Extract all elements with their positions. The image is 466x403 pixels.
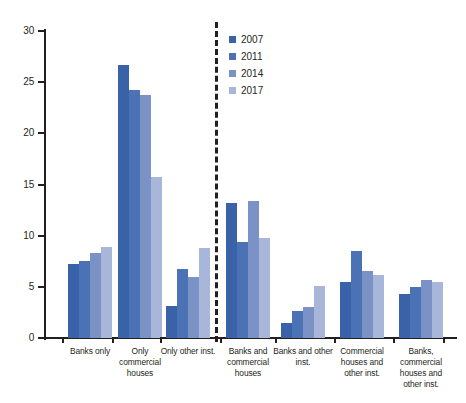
bar-2014: [248, 201, 259, 338]
bar-2007: [68, 264, 79, 338]
bar-2014: [303, 307, 314, 338]
y-tick-0: [38, 337, 45, 339]
bar-2007: [281, 323, 292, 338]
x-tick: [112, 337, 114, 343]
bar-2007: [399, 294, 410, 338]
bar-group: [278, 31, 328, 338]
legend-item-2014[interactable]: 2014: [229, 65, 263, 82]
x-tick: [160, 337, 162, 343]
x-axis-label: Only other inst.: [158, 346, 218, 357]
y-tick-25: [38, 81, 45, 83]
legend-item-2011[interactable]: 2011: [229, 48, 263, 65]
bar-2007: [226, 203, 237, 338]
x-tick: [443, 337, 445, 343]
bar-group: [337, 31, 387, 338]
legend-swatch-icon: [229, 36, 236, 43]
y-tick-label: 25: [8, 77, 34, 87]
x-axis-label: Banks, commercial houses and other inst.: [391, 346, 451, 390]
legend-item-2007[interactable]: 2007: [229, 31, 263, 48]
x-axis-label: Banks and other inst.: [273, 346, 333, 368]
x-tick: [393, 337, 395, 343]
legend-label: 2017: [241, 86, 263, 96]
bar-chart: 051015202530 Banks onlyOnly commercial h…: [0, 0, 466, 403]
y-tick-label: 30: [8, 26, 34, 36]
bar-2017: [373, 275, 384, 338]
y-tick-20: [38, 132, 45, 134]
bar-2014: [90, 253, 101, 338]
bar-2017: [432, 282, 443, 338]
y-tick-10: [38, 235, 45, 237]
legend-label: 2014: [241, 69, 263, 79]
bar-2007: [340, 282, 351, 338]
bar-2017: [199, 248, 210, 338]
bar-2011: [79, 261, 90, 338]
legend-swatch-icon: [229, 70, 236, 77]
y-tick-5: [38, 286, 45, 288]
bar-2014: [188, 277, 199, 338]
bar-group: [396, 31, 446, 338]
x-axis-label: Banks and commercial houses: [218, 346, 278, 379]
bar-2017: [314, 286, 325, 338]
y-tick-label: 20: [8, 128, 34, 138]
x-tick: [275, 337, 277, 343]
bar-2007: [118, 65, 129, 338]
y-tick-label: 15: [8, 180, 34, 190]
legend-item-2017[interactable]: 2017: [229, 82, 263, 99]
bar-2017: [101, 247, 112, 338]
legend-label: 2007: [241, 35, 263, 45]
bar-2011: [292, 311, 303, 338]
bar-2017: [151, 177, 162, 338]
legend-label: 2011: [241, 52, 263, 62]
legend-swatch-icon: [229, 53, 236, 60]
y-tick-label: 10: [8, 231, 34, 241]
x-tick: [334, 337, 336, 343]
bar-2011: [177, 269, 188, 338]
x-tick: [220, 337, 222, 343]
bar-2011: [237, 242, 248, 338]
bar-2007: [166, 306, 177, 338]
bar-2011: [351, 251, 362, 338]
legend-swatch-icon: [229, 87, 236, 94]
bar-2014: [140, 95, 151, 338]
legend: 2007201120142017: [229, 31, 263, 99]
bar-group: [163, 31, 213, 338]
bar-2014: [421, 280, 432, 338]
group-divider-dashed-line: [215, 22, 218, 342]
bar-2011: [410, 287, 421, 338]
bar-group: [65, 31, 115, 338]
y-tick-30: [38, 30, 45, 32]
x-axis-label: Commercial houses and other inst.: [332, 346, 392, 379]
bar-2017: [259, 238, 270, 338]
y-tick-15: [38, 184, 45, 186]
x-tick: [62, 337, 64, 343]
bar-2011: [129, 90, 140, 338]
y-tick-label: 5: [8, 282, 34, 292]
y-tick-label: 0: [8, 333, 34, 343]
bar-group: [115, 31, 165, 338]
bar-2014: [362, 271, 373, 338]
